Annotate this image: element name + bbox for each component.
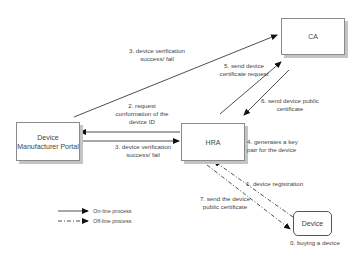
node-ca-label: CA xyxy=(308,32,318,41)
node-device-label: Device xyxy=(302,219,323,228)
node-ca: CA xyxy=(281,18,345,55)
legend-offline-label: Off-line process xyxy=(93,217,131,225)
node-device-manufacturer-portal: Device Manufacturer Portal xyxy=(16,122,80,161)
legend-online-label: On-line process xyxy=(93,207,132,215)
edge-6-label: 6. send device public certificate xyxy=(255,97,325,113)
edge-4-label: 4. generates a key pair for the device xyxy=(247,138,298,154)
edge-3-ca-label: 3. device verification success/ fail xyxy=(122,47,192,63)
edge-1-label: 1. device registration xyxy=(246,180,303,188)
edge-3-hra-label: 3. device verification success/ fail xyxy=(108,143,178,159)
edge-0-label: 0. buying a device xyxy=(290,239,340,247)
node-dmp-label-1: Device xyxy=(37,133,58,142)
node-device: Device xyxy=(293,211,332,236)
node-hra-label: HRA xyxy=(206,138,221,147)
edge-2-label: 2. request conformation of the device ID xyxy=(107,102,177,126)
edge-7-label: 7. send the device public certificate xyxy=(195,195,255,211)
node-dmp-label-2: Manufacturer Portal xyxy=(17,142,78,151)
node-hra: HRA xyxy=(181,123,245,161)
edge-5-label: 5. send device certificate request xyxy=(214,62,274,78)
